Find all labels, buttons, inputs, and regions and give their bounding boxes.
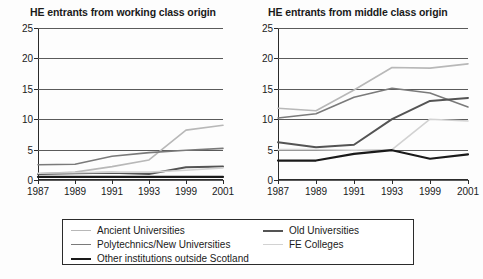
x-axis-tick-mark — [468, 180, 469, 184]
x-axis-tick-label: 1999 — [419, 186, 441, 197]
series-line — [278, 64, 468, 111]
series-line — [278, 150, 468, 160]
y-axis-tick-label: 20 — [262, 53, 273, 64]
legend-item[interactable]: Polytechnics/New Universities — [71, 238, 249, 251]
y-axis-tick-label: 20 — [22, 53, 33, 64]
chart-title-middle-class: HE entrants from middle class origin — [242, 6, 483, 18]
gridline — [278, 180, 468, 181]
chart-legend: Ancient UniversitiesPolytechnics/New Uni… — [62, 219, 414, 265]
legend-line-swatch — [263, 230, 283, 232]
y-axis-tick-label: 15 — [262, 83, 273, 94]
x-axis-tick-label: 1993 — [138, 186, 160, 197]
x-axis-tick-label: 1989 — [64, 186, 86, 197]
x-axis-tick-label: 1989 — [305, 186, 327, 197]
legend-item-label: Polytechnics/New Universities — [97, 240, 230, 250]
y-axis-tick-label: 5 — [27, 144, 33, 155]
x-axis-tick-label: 1999 — [175, 186, 197, 197]
x-axis-tick-mark — [75, 180, 76, 184]
y-axis-tick-label: 10 — [262, 114, 273, 125]
chart-page: HE entrants from working class origin 05… — [0, 0, 483, 279]
chart-panel-working-class: HE entrants from working class origin 05… — [0, 0, 241, 205]
x-axis-tick-mark — [112, 180, 113, 184]
legend-item-label: Ancient Universities — [97, 226, 185, 236]
series-layer — [38, 28, 223, 180]
legend-item[interactable]: Other institutions outside Scotland — [71, 252, 249, 265]
chart-title-working-class: HE entrants from working class origin — [0, 6, 241, 18]
plot-area-middle-class: 0510152025198719891991199319992001 — [278, 28, 468, 180]
x-axis-tick-label: 1991 — [101, 186, 123, 197]
x-axis-tick-label: 1991 — [343, 186, 365, 197]
x-axis-tick-mark — [186, 180, 187, 184]
legend-item-label: FE Colleges — [289, 240, 343, 250]
series-line — [278, 88, 468, 118]
series-line — [278, 98, 468, 147]
y-axis-tick-label: 0 — [267, 175, 273, 186]
legend-column-left: Ancient UniversitiesPolytechnics/New Uni… — [71, 224, 249, 266]
series-line — [38, 168, 223, 173]
legend-item-label: Other institutions outside Scotland — [97, 254, 249, 264]
x-axis-tick-mark — [149, 180, 150, 184]
legend-item[interactable]: Old Universities — [263, 224, 359, 237]
y-axis-tick-label: 10 — [22, 114, 33, 125]
x-axis-tick-mark — [392, 180, 393, 184]
y-axis-tick-label: 15 — [22, 83, 33, 94]
x-axis-tick-mark — [354, 180, 355, 184]
series-layer — [278, 28, 468, 180]
x-axis-tick-mark — [223, 180, 224, 184]
x-axis-tick-mark — [430, 180, 431, 184]
plot-area-working-class: 0510152025198719891991199319992001 — [38, 28, 223, 180]
gridline — [38, 180, 223, 181]
legend-line-swatch — [263, 244, 283, 245]
legend-line-swatch — [71, 258, 91, 260]
x-axis-tick-label: 1987 — [267, 186, 289, 197]
legend-line-swatch — [71, 230, 91, 231]
x-axis-tick-mark — [38, 180, 39, 184]
x-axis-tick-label: 2001 — [457, 186, 479, 197]
y-axis-tick-label: 25 — [262, 23, 273, 34]
legend-item-label: Old Universities — [289, 226, 359, 236]
x-axis-tick-label: 2001 — [212, 186, 234, 197]
legend-line-swatch — [71, 244, 91, 245]
legend-item[interactable]: FE Colleges — [263, 238, 359, 251]
y-axis-tick-label: 0 — [27, 175, 33, 186]
series-line — [38, 148, 223, 164]
x-axis-tick-label: 1987 — [27, 186, 49, 197]
chart-panel-middle-class: HE entrants from middle class origin 051… — [242, 0, 483, 205]
legend-column-right: Old UniversitiesFE Colleges — [263, 224, 359, 252]
x-axis-tick-mark — [316, 180, 317, 184]
y-axis-tick-label: 25 — [22, 23, 33, 34]
x-axis-tick-label: 1993 — [381, 186, 403, 197]
charts-container: HE entrants from working class origin 05… — [0, 0, 483, 205]
legend-item[interactable]: Ancient Universities — [71, 224, 249, 237]
y-axis-tick-label: 5 — [267, 144, 273, 155]
x-axis-tick-mark — [278, 180, 279, 184]
